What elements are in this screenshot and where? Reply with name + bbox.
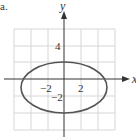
- x-axis-arrow-icon: [122, 76, 130, 82]
- ellipse-chart: a. x y −2 2 4 −2: [0, 0, 136, 137]
- axes: [4, 16, 124, 137]
- figure-label: a.: [0, 0, 8, 12]
- x-axis-label: x: [131, 72, 136, 86]
- y-axis-label: y: [59, 0, 66, 13]
- tick-y-neg2: −2: [51, 91, 63, 103]
- tick-x-2: 2: [78, 82, 84, 94]
- tick-x-neg2: −2: [40, 82, 52, 94]
- tick-y-4: 4: [55, 40, 61, 52]
